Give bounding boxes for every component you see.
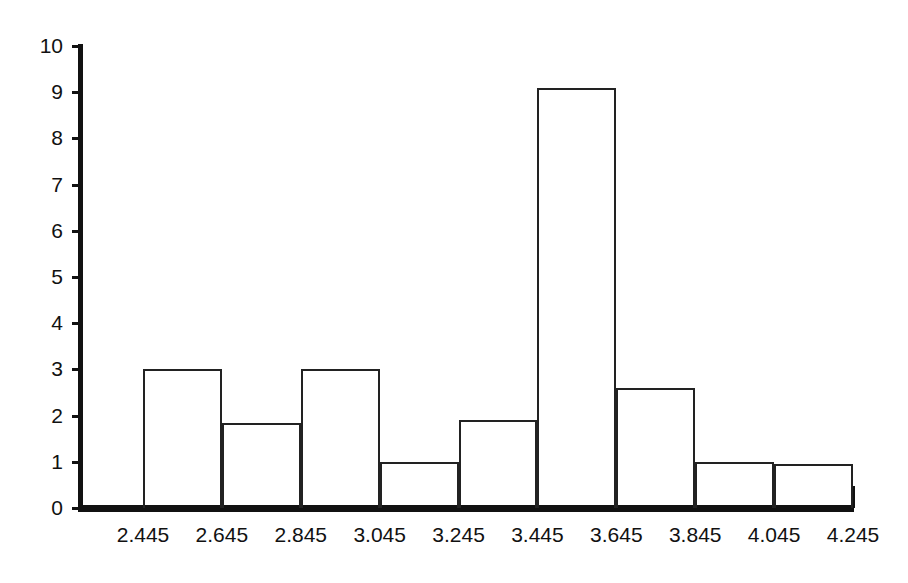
y-axis-tick <box>72 276 81 279</box>
y-axis-tick <box>72 368 81 371</box>
y-axis-tick <box>72 184 81 187</box>
histogram-bar <box>537 88 616 508</box>
histogram-bar <box>143 369 222 508</box>
y-axis-tick-label: 10 <box>29 35 63 56</box>
x-axis-tick-label: 4.245 <box>808 524 898 545</box>
x-axis-tick-label: 3.245 <box>414 524 504 545</box>
x-axis-tick-label: 4.045 <box>729 524 819 545</box>
histogram-screenshot: 012345678910 2.4452.6452.8453.0453.2453.… <box>0 0 908 583</box>
y-axis-tick <box>72 137 81 140</box>
y-axis-tick-label: 7 <box>29 174 63 195</box>
x-axis-tick-label: 3.045 <box>335 524 425 545</box>
histogram-plot: 012345678910 2.4452.6452.8453.0453.2453.… <box>0 0 908 583</box>
histogram-bar <box>695 462 774 508</box>
x-axis-tick-label: 2.445 <box>98 524 188 545</box>
y-axis-tick <box>72 415 81 418</box>
y-axis-tick <box>72 91 81 94</box>
x-axis-tick <box>853 486 855 508</box>
x-axis-tick-label: 3.445 <box>492 524 582 545</box>
y-axis-tick-label: 2 <box>29 405 63 426</box>
y-axis-tick-label: 6 <box>29 220 63 241</box>
x-axis-tick-label: 3.845 <box>650 524 740 545</box>
histogram-bar <box>616 388 695 508</box>
y-axis-tick <box>72 230 81 233</box>
y-axis-tick-label: 9 <box>29 81 63 102</box>
y-axis-tick <box>72 461 81 464</box>
histogram-bar <box>380 462 459 508</box>
histogram-bar <box>222 423 301 508</box>
x-axis-tick-label: 2.645 <box>177 524 267 545</box>
y-axis-tick-label: 0 <box>29 497 63 518</box>
histogram-bar <box>459 420 538 508</box>
y-axis-tick-label: 1 <box>29 451 63 472</box>
y-axis-tick-label: 4 <box>29 312 63 333</box>
x-axis-tick-label: 2.845 <box>256 524 346 545</box>
histogram-bar <box>774 464 853 508</box>
histogram-bar <box>301 369 380 508</box>
y-axis-tick <box>72 322 81 325</box>
y-axis-tick-label: 5 <box>29 266 63 287</box>
y-axis-tick-label: 3 <box>29 358 63 379</box>
x-axis-tick-label: 3.645 <box>571 524 661 545</box>
y-axis-tick <box>72 45 81 48</box>
y-axis-tick <box>72 507 81 510</box>
y-axis-tick-label: 8 <box>29 127 63 148</box>
